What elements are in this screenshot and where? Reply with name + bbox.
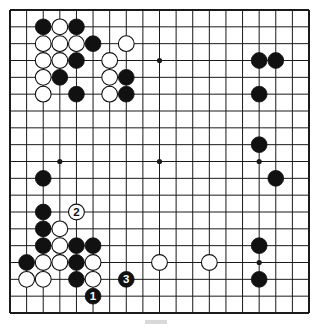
black-stone [52, 69, 68, 85]
star-point [57, 159, 62, 164]
white-stone [201, 255, 217, 271]
black-stone [251, 238, 267, 254]
black-stone [118, 69, 134, 85]
white-stone [118, 36, 134, 52]
white-stone [35, 36, 51, 52]
white-stone [69, 36, 85, 52]
white-stone [19, 271, 35, 287]
black-stone [69, 238, 85, 254]
white-stone [52, 221, 68, 237]
black-stone [251, 271, 267, 287]
white-stone [85, 271, 101, 287]
black-stone [69, 271, 85, 287]
white-stone [35, 271, 51, 287]
move-number-label: 2 [73, 206, 79, 218]
black-stone [69, 53, 85, 69]
black-stone [35, 170, 51, 186]
black-stone: 3 [118, 271, 134, 287]
black-stone [118, 86, 134, 102]
white-stone [102, 86, 118, 102]
black-stone [35, 204, 51, 220]
caption-fragment [145, 320, 167, 324]
black-stone [251, 137, 267, 153]
white-stone [35, 69, 51, 85]
star-point [257, 260, 262, 265]
black-stone [69, 19, 85, 35]
black-stone [251, 86, 267, 102]
black-stone [19, 255, 35, 271]
black-stone [35, 19, 51, 35]
white-stone [152, 255, 168, 271]
white-stone [52, 19, 68, 35]
black-stone [268, 170, 284, 186]
go-board: 231 [0, 0, 316, 327]
black-stone [85, 238, 101, 254]
black-stone [69, 86, 85, 102]
black-stone [85, 36, 101, 52]
move-number-label: 3 [123, 273, 129, 285]
white-stone [102, 69, 118, 85]
star-point [157, 159, 162, 164]
black-stone [69, 255, 85, 271]
white-stone [52, 238, 68, 254]
black-stone: 1 [85, 288, 101, 304]
black-stone [35, 221, 51, 237]
white-stone [52, 36, 68, 52]
star-point [157, 58, 162, 63]
white-stone [35, 86, 51, 102]
white-stone [52, 255, 68, 271]
white-stone [35, 255, 51, 271]
black-stone [35, 238, 51, 254]
white-stone [102, 53, 118, 69]
white-stone [52, 53, 68, 69]
white-stone [35, 53, 51, 69]
move-number-label: 1 [90, 290, 97, 302]
star-point [257, 159, 262, 164]
black-stone [251, 53, 267, 69]
black-stone [268, 53, 284, 69]
white-stone [85, 255, 101, 271]
white-stone: 2 [69, 204, 85, 220]
